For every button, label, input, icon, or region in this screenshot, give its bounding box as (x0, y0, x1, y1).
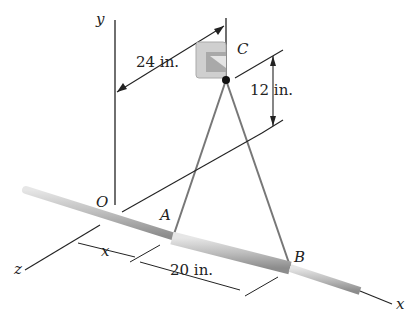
x-distance-label: x (101, 244, 109, 259)
origin-label: O (96, 195, 108, 210)
dimension-12-label: 12 in. (250, 83, 293, 98)
point-c-dot (222, 76, 230, 84)
point-b-label: B (294, 250, 305, 265)
arrowhead-icon (214, 26, 224, 35)
dimension-24-label: 24 in. (136, 55, 179, 70)
cable-ca (173, 80, 226, 237)
statics-diagram: y 24 in. C 12 in. O A B x 20 in. z x (0, 0, 420, 319)
z-axis-label: z (14, 262, 22, 277)
y-axis-label: y (96, 12, 104, 27)
x-axis-label: x (396, 297, 404, 312)
point-a-label: A (160, 208, 171, 223)
point-c-label: C (237, 42, 248, 57)
x-axis-line (360, 291, 392, 304)
cable-cb (226, 80, 290, 266)
z-axis-line (25, 225, 100, 270)
arrowhead-icon (117, 83, 127, 92)
dimension-20-label: 20 in. (170, 263, 213, 278)
